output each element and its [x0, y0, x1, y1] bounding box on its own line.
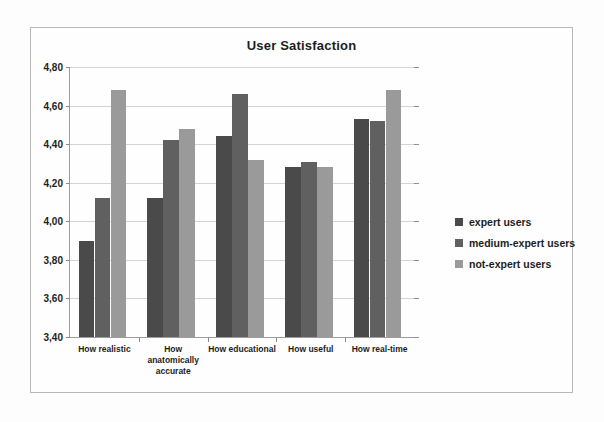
legend-swatch-icon: [455, 260, 463, 268]
bar: [386, 90, 402, 337]
y-axis-tick-mark: [66, 337, 70, 338]
chart-frame: User Satisfaction 4,804,604,404,204,003,…: [30, 27, 573, 393]
y-axis-tick-label: 4,60: [44, 100, 63, 111]
x-axis-tick-mark: [208, 337, 209, 342]
y-axis-tick-mark-right: [414, 183, 419, 184]
bar: [79, 241, 95, 337]
bar: [163, 140, 179, 337]
bar: [370, 121, 386, 337]
y-axis-tick-label: 3,40: [44, 332, 63, 343]
x-axis-category-label: How realistic: [70, 344, 139, 355]
legend-item[interactable]: medium-expert users: [455, 237, 600, 249]
y-axis-tick-label: 4,20: [44, 177, 63, 188]
bar-group: [70, 67, 139, 337]
x-axis-category-label: How anatomically accurate: [139, 344, 208, 377]
y-axis-tick-mark-right: [414, 67, 419, 68]
x-axis-tick-mark: [139, 337, 140, 342]
y-axis-tick-mark-right: [414, 144, 419, 145]
legend-swatch-icon: [455, 218, 463, 226]
legend-item[interactable]: not-expert users: [455, 258, 600, 270]
x-axis-category-label: How educational: [208, 344, 277, 355]
bar-group: [276, 67, 345, 337]
bar: [111, 90, 127, 337]
plot-area: 4,804,604,404,204,003,803,603,40 How rea…: [69, 67, 414, 338]
y-axis-tick-mark-right: [414, 260, 419, 261]
y-axis-tick-label: 4,40: [44, 139, 63, 150]
chart-title: User Satisfaction: [31, 38, 572, 53]
bar: [301, 162, 317, 338]
y-axis-tick-label: 3,60: [44, 293, 63, 304]
x-axis-tick-mark: [276, 337, 277, 342]
bar: [317, 167, 333, 337]
x-axis-tick-mark: [345, 337, 346, 342]
bar-group: [139, 67, 208, 337]
legend-label: medium-expert users: [469, 237, 575, 249]
bar: [248, 160, 264, 337]
x-axis-category-label: How real-time: [345, 344, 414, 355]
y-axis-tick-mark-right: [414, 337, 419, 338]
bar: [285, 167, 301, 337]
chart-legend: expert usersmedium-expert usersnot-exper…: [455, 216, 600, 279]
y-axis-tick-label: 4,80: [44, 62, 63, 73]
bar-group: [345, 67, 414, 337]
bar: [216, 136, 232, 337]
legend-label: not-expert users: [469, 258, 551, 270]
y-axis-tick-label: 4,00: [44, 216, 63, 227]
y-axis-tick-mark-right: [414, 106, 419, 107]
x-axis-category-label: How useful: [276, 344, 345, 355]
legend-label: expert users: [469, 216, 531, 228]
y-axis-tick-label: 3,80: [44, 254, 63, 265]
bar: [95, 198, 111, 337]
y-axis-tick-mark-right: [414, 221, 419, 222]
bar: [354, 119, 370, 337]
bar: [232, 94, 248, 337]
legend-item[interactable]: expert users: [455, 216, 600, 228]
bar-group: [208, 67, 277, 337]
y-axis-tick-mark-right: [414, 298, 419, 299]
bar: [147, 198, 163, 337]
legend-swatch-icon: [455, 239, 463, 247]
bar: [179, 129, 195, 337]
